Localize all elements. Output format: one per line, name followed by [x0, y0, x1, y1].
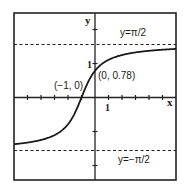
root-point-label: (−1, 0) — [54, 80, 83, 91]
arctan-graph: y x 1 1 y=π/2 y=−π/2 (−1, 0) (0, 0.78) — [0, 0, 184, 189]
x-axis-label: x — [167, 96, 173, 108]
lower-asymptote-label: y=−π/2 — [118, 154, 150, 165]
y-axis-label: y — [85, 14, 91, 26]
x-tick-label-1: 1 — [105, 102, 110, 113]
y-tick-label-1: 1 — [87, 59, 92, 70]
upper-asymptote-label: y=π/2 — [120, 27, 147, 38]
intercept-point-label: (0, 0.78) — [98, 70, 135, 81]
